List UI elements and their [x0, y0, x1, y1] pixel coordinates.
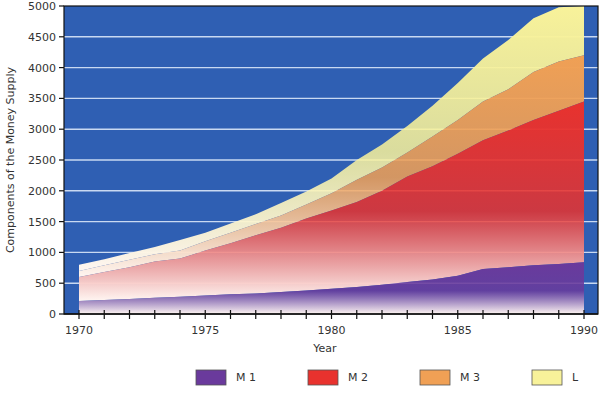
y-tick-label: 3500	[28, 92, 56, 105]
y-tick-label: 0	[49, 308, 56, 321]
y-tick-label: 4500	[28, 31, 56, 44]
legend-swatch	[196, 370, 226, 385]
legend-label: M 2	[348, 371, 368, 384]
y-tick-label: 1500	[28, 216, 56, 229]
legend: M 1M 2M 3L	[196, 370, 579, 385]
legend-label: L	[572, 371, 579, 384]
x-tick-label: 1980	[318, 324, 346, 337]
y-axis-ticks: 0500100015002000250030003500400045005000	[28, 0, 64, 321]
y-tick-label: 3000	[28, 123, 56, 136]
y-tick-label: 1000	[28, 246, 56, 259]
legend-label: M 1	[236, 371, 256, 384]
legend-label: M 3	[460, 371, 480, 384]
y-tick-label: 5000	[28, 0, 56, 13]
x-axis-title: Year	[312, 342, 337, 355]
y-tick-label: 500	[35, 277, 56, 290]
y-tick-label: 2000	[28, 185, 56, 198]
x-tick-label: 1990	[570, 324, 598, 337]
x-tick-label: 1970	[65, 324, 93, 337]
y-tick-label: 2500	[28, 154, 56, 167]
y-axis-title: Components of the Money Supply	[4, 66, 17, 253]
x-tick-label: 1975	[191, 324, 219, 337]
legend-swatch	[532, 370, 562, 385]
legend-swatch	[420, 370, 450, 385]
x-tick-label: 1985	[444, 324, 472, 337]
legend-swatch	[308, 370, 338, 385]
y-tick-label: 4000	[28, 62, 56, 75]
money-supply-chart: 0500100015002000250030003500400045005000…	[0, 0, 603, 400]
